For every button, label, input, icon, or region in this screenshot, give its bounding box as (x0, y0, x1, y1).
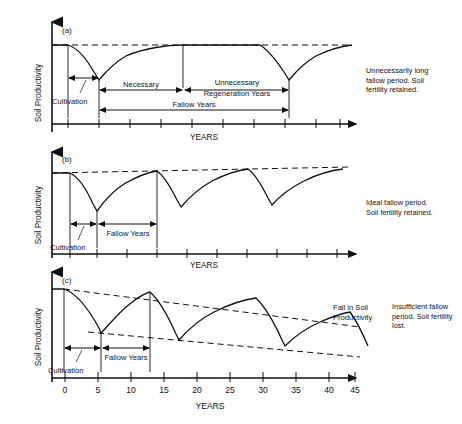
panel-c-cultivation-label: Cultivation (48, 366, 83, 375)
soil-productivity-figure: Soil Productivity (a) Cultivation Necess… (0, 0, 462, 424)
panel-a-unnecessary-label: Unnecessary (215, 78, 260, 87)
panel-c-tick-labels: 0 5 10 15 20 25 30 35 40 45 (63, 385, 360, 395)
panel-b-caption: Ideal fallow period. Soil fertility reta… (366, 198, 433, 217)
panel-a-curve (52, 45, 352, 80)
tick-label: 10 (126, 385, 136, 395)
panel-c-upper-envelope (64, 289, 360, 327)
tick-label: 25 (225, 385, 235, 395)
tick-label: 45 (350, 385, 360, 395)
panel-c: Soil Productivity (c) Cultivation Fallow… (34, 272, 372, 411)
tick-label: 40 (324, 385, 334, 395)
panel-b-cultivation-leader (78, 226, 84, 240)
tick-label: 20 (192, 385, 202, 395)
panel-a-y-axis-label: Soil Productivity (34, 63, 43, 122)
panel-a-necessary-label: Necessary (123, 80, 159, 89)
tick-label: 5 (96, 385, 101, 395)
panel-c-fallow-label: Fallow Years (104, 353, 147, 362)
panel-b-tag: (b) (62, 155, 72, 164)
panel-a-caption: Unnecessarily long fallow period. Soil f… (366, 66, 428, 95)
panel-b: Soil Productivity (b) Cultivation Fallow… (34, 152, 356, 270)
panel-c-cultivation-leader (76, 350, 82, 362)
panel-a-x-axis-label: YEARS (190, 133, 218, 142)
panel-c-fall-label-line1: Fall in Soil (333, 303, 368, 312)
panel-b-fallow-label: Fallow Years (106, 229, 149, 238)
tick-label: 30 (258, 385, 268, 395)
panel-c-tag: (c) (62, 276, 72, 285)
panel-b-x-axis-label: YEARS (190, 261, 218, 270)
tick-label: 35 (291, 385, 301, 395)
panel-c-curve (52, 289, 368, 346)
panel-a-tag: (a) (62, 26, 72, 35)
panel-a-fallow-label: Fallow Years (172, 100, 215, 109)
panel-a-cultivation-leader (80, 80, 86, 93)
panel-c-x-axis-label: YEARS (195, 401, 224, 411)
tick-label: 0 (63, 385, 68, 395)
panel-c-fall-label-line2: Productivity (333, 313, 372, 322)
panel-b-cultivation-label: Cultivation (50, 243, 85, 252)
panel-c-y-axis-label: Soil Productivity (34, 307, 43, 366)
panel-b-baseline (52, 167, 350, 173)
panel-b-curve (52, 169, 343, 211)
panel-a-cultivation-label: Cultivation (52, 97, 87, 106)
panel-c-caption: Insufficient fallow period. Soil fertili… (392, 302, 452, 331)
tick-label: 15 (159, 385, 169, 395)
panel-a-regeneration-label: Regeneration Years (204, 89, 271, 98)
panel-c-ticks (65, 372, 355, 382)
panel-b-y-axis-label: Soil Productivity (34, 185, 43, 244)
panel-a: Soil Productivity (a) Cultivation Necess… (34, 22, 356, 142)
